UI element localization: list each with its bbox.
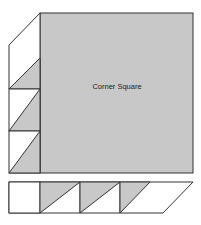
corner-square: [40, 13, 193, 173]
bottom-strip-white-square: [9, 182, 40, 213]
diagram-canvas: Corner Square: [0, 0, 201, 225]
corner-square-diagram: Corner Square: [0, 0, 201, 225]
corner-square-label: Corner Square: [92, 82, 141, 91]
